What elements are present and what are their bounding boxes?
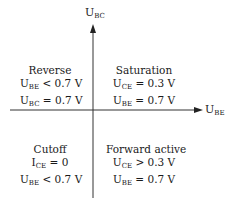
quadrant-reverse: Reverse UBE < 0.7 V UBC = 0.7 V <box>20 64 80 111</box>
quadrant-title: Forward active <box>106 143 182 156</box>
condition-line: UBE < 0.7 V <box>20 173 80 190</box>
y-axis-label: UBC <box>85 6 105 20</box>
quadrant-title: Saturation <box>112 64 176 77</box>
condition-line: UBE < 0.7 V <box>20 77 80 94</box>
quadrant-cutoff: Cutoff ICE = 0 UBE < 0.7 V <box>20 143 80 190</box>
quadrant-title: Reverse <box>20 64 80 77</box>
condition-line: UBC = 0.7 V <box>20 94 80 111</box>
quadrant-forward-active: Forward active UCE > 0.3 V UBE = 0.7 V <box>106 143 182 190</box>
condition-line: UBE = 0.7 V <box>112 94 176 111</box>
quadrant-saturation: Saturation UCE = 0.3 V UBE = 0.7 V <box>112 64 176 111</box>
quadrant-title: Cutoff <box>20 143 80 156</box>
condition-line: ICE = 0 <box>20 156 80 173</box>
condition-line: UCE > 0.3 V <box>106 156 182 173</box>
y-axis-arrow-icon <box>90 24 96 33</box>
condition-line: UBE = 0.7 V <box>106 173 182 190</box>
x-axis-label: UBE <box>205 103 225 117</box>
x-axis-arrow-icon <box>194 107 203 113</box>
condition-line: UCE = 0.3 V <box>112 77 176 94</box>
